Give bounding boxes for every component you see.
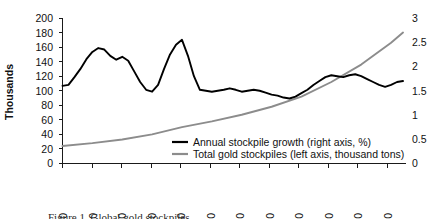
legend-label-total-stockpiles: Total gold stockpiles (left axis, thousa… xyxy=(193,148,404,160)
y-axis-left: 200 180 160 140 120 100 80 60 40 20 0 xyxy=(35,12,62,169)
y-axis-right: 3 2.5 2 1.5 1 0.5 0 xyxy=(412,12,427,169)
y-axis-title-text: Thousands xyxy=(3,64,15,120)
y2-tick-label: 2 xyxy=(412,60,418,72)
y-tick-label: 120 xyxy=(35,70,53,82)
x-axis xyxy=(63,164,407,169)
y2-tick-label: 2.5 xyxy=(412,36,427,48)
y-tick-label: 20 xyxy=(41,143,53,155)
y-tick-label: 40 xyxy=(41,128,53,140)
y-tick-label: 180 xyxy=(35,27,53,39)
y-tick-label: 0 xyxy=(47,157,53,169)
y-tick-label: 100 xyxy=(35,85,53,97)
y-tick-label: 60 xyxy=(41,114,53,126)
figure-caption-strip: Figure 1. Global gold stockpiles xyxy=(0,211,446,219)
y-tick-label: 160 xyxy=(35,41,53,53)
y2-tick-label: 3 xyxy=(412,12,418,24)
y-axis-title: Thousands xyxy=(3,64,15,120)
y-tick-label: 80 xyxy=(41,99,53,111)
y2-tick-label: 0.5 xyxy=(412,133,427,145)
y-tick-label: 140 xyxy=(35,56,53,68)
y2-tick-label: 0 xyxy=(412,157,418,169)
y2-tick-label: 1.5 xyxy=(412,85,427,97)
y2-tick-label: 1 xyxy=(412,109,418,121)
chart-svg: Thousands 200 180 160 140 120 100 80 60 … xyxy=(0,0,446,219)
chart-legend: Annual stockpile growth (right axis, %) … xyxy=(172,136,404,160)
y-tick-label: 200 xyxy=(35,12,53,24)
chart-figure: Thousands 200 180 160 140 120 100 80 60 … xyxy=(0,0,446,219)
legend-label-annual-growth: Annual stockpile growth (right axis, %) xyxy=(193,136,371,148)
figure-caption: Figure 1. Global gold stockpiles xyxy=(48,211,189,219)
